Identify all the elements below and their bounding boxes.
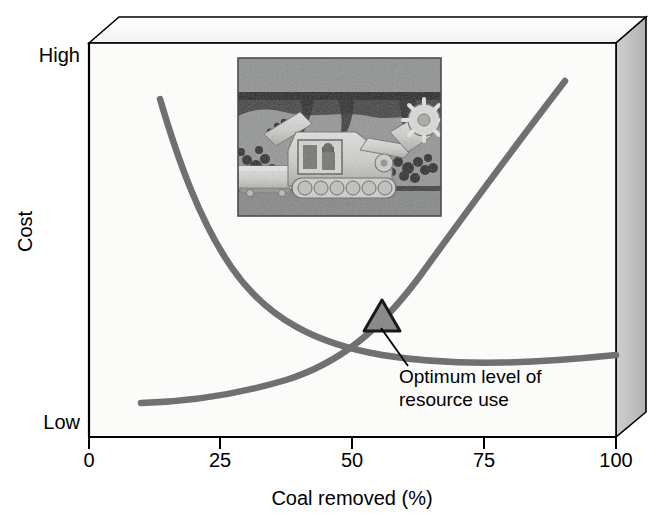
inset-photo-group <box>237 58 445 216</box>
x-tick-label-50: 50 <box>322 449 382 472</box>
x-axis-ticks <box>89 437 616 449</box>
optimum-annotation-line-2: resource use <box>399 388 614 411</box>
optimum-annotation-label: Optimum level of resource use <box>399 365 614 411</box>
chart-canvas <box>0 0 660 524</box>
y-tick-label-high: High <box>0 44 80 67</box>
x-tick-label-75: 75 <box>454 449 514 472</box>
x-tick-label-25: 25 <box>190 449 250 472</box>
x-tick-label-0: 0 <box>59 449 119 472</box>
optimum-annotation-line-1: Optimum level of <box>399 365 614 388</box>
plot-box-right-face <box>616 17 646 437</box>
x-tick-label-100: 100 <box>586 449 646 472</box>
y-tick-label-low: Low <box>0 411 80 434</box>
plot-box-top-face <box>89 17 646 43</box>
y-axis-title: Cost <box>14 187 37 277</box>
chart-figure: Cost Coal removed (%) High Low 0 25 50 7… <box>0 0 660 524</box>
x-axis-title: Coal removed (%) <box>89 487 615 510</box>
